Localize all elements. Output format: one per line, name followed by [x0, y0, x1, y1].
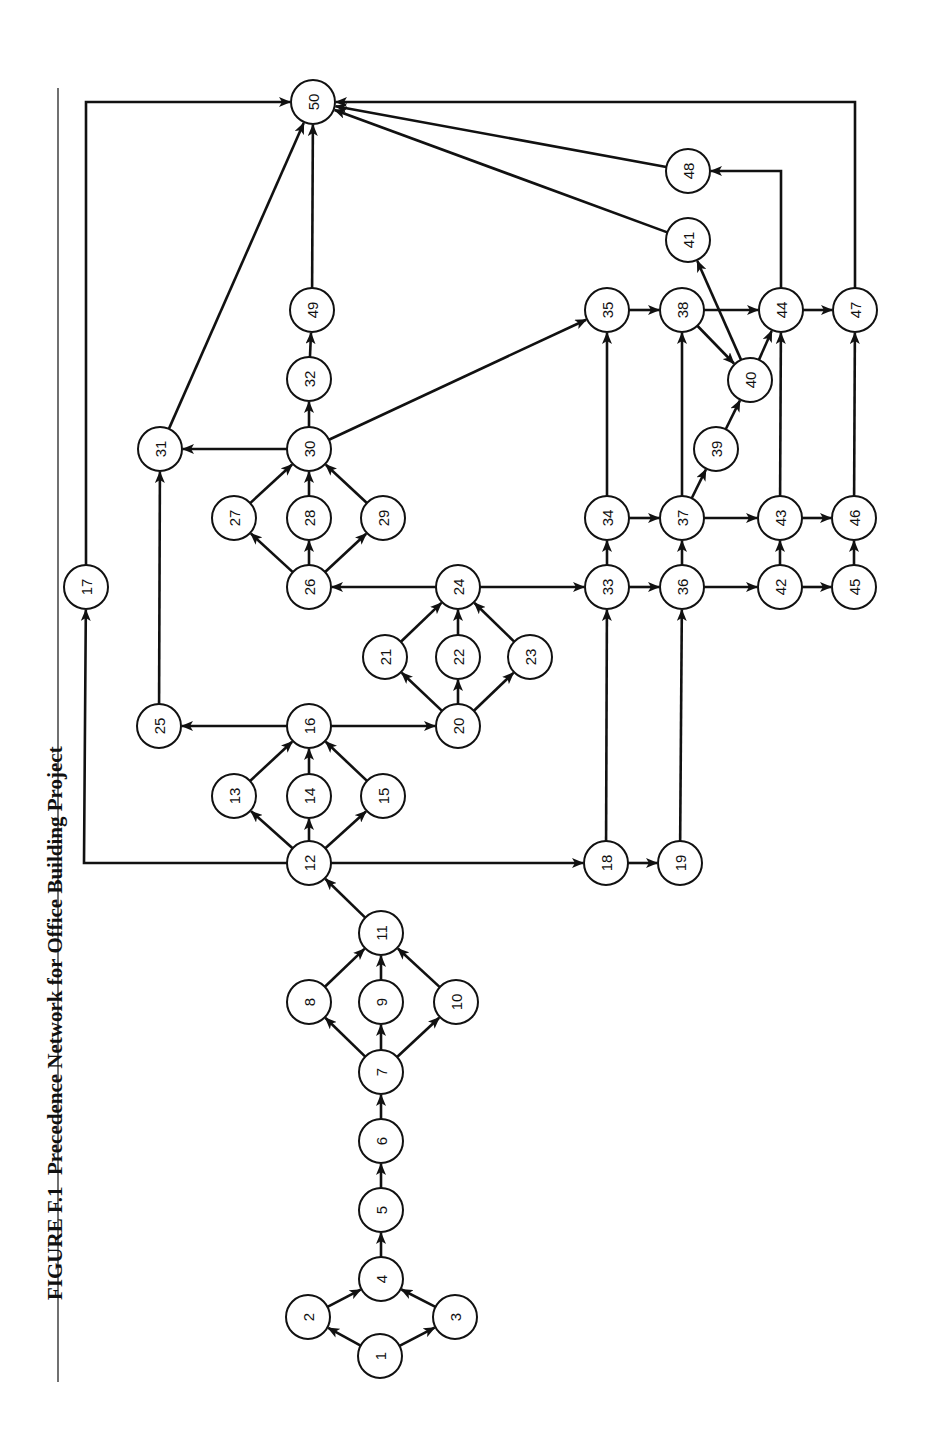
edge-39-to-40 — [726, 401, 740, 430]
precedence-network-diagram: FIGURE F.1 Precedence Network for Office… — [0, 0, 937, 1439]
edge-29-to-30 — [326, 465, 367, 503]
node-35: 35 — [585, 288, 629, 332]
node-6: 6 — [359, 1119, 403, 1163]
node-25: 25 — [137, 704, 181, 748]
node-label: 42 — [772, 579, 789, 596]
node-37: 37 — [660, 496, 704, 540]
edge-46-to-47 — [854, 333, 855, 496]
node-label: 47 — [847, 302, 864, 319]
node-label: 50 — [305, 94, 322, 111]
edge-41-to-50 — [335, 110, 668, 232]
edge-11-to-12 — [325, 879, 365, 918]
node-30: 30 — [287, 427, 331, 471]
node-label: 27 — [226, 510, 243, 527]
node-38: 38 — [660, 288, 704, 332]
node-label: 19 — [672, 855, 689, 872]
node-label: 30 — [301, 441, 318, 458]
edge-2-to-4 — [328, 1290, 361, 1307]
node-label: 21 — [377, 649, 394, 666]
node-19: 19 — [658, 841, 702, 885]
node-label: 17 — [78, 579, 95, 596]
node-label: 5 — [373, 1206, 390, 1214]
edge-12-to-13 — [251, 811, 292, 848]
node-label: 29 — [375, 510, 392, 527]
node-32: 32 — [287, 357, 331, 401]
node-label: 35 — [599, 302, 616, 319]
edge-23-to-24 — [474, 603, 514, 642]
node-8: 8 — [287, 980, 331, 1024]
node-label: 32 — [301, 371, 318, 388]
edge-31-to-50 — [169, 123, 304, 429]
node-label: 1 — [372, 1352, 389, 1360]
node-33: 33 — [585, 565, 629, 609]
node-label: 24 — [450, 579, 467, 596]
node-4: 4 — [359, 1257, 403, 1301]
node-42: 42 — [758, 565, 802, 609]
node-label: 18 — [598, 855, 615, 872]
node-label: 33 — [599, 579, 616, 596]
node-17: 17 — [64, 565, 108, 609]
node-label: 2 — [300, 1313, 317, 1321]
node-39: 39 — [694, 427, 738, 471]
node-7: 7 — [359, 1050, 403, 1094]
node-34: 34 — [585, 496, 629, 540]
node-label: 22 — [450, 649, 467, 666]
node-label: 10 — [448, 994, 465, 1011]
node-label: 12 — [301, 855, 318, 872]
node-label: 13 — [226, 788, 243, 805]
edge-21-to-24 — [401, 603, 442, 642]
node-12: 12 — [287, 841, 331, 885]
edge-15-to-16 — [326, 742, 367, 781]
edge-8-to-11 — [325, 949, 365, 987]
node-45: 45 — [832, 565, 876, 609]
edge-30-to-35 — [329, 320, 586, 440]
node-43: 43 — [758, 496, 802, 540]
node-27: 27 — [212, 496, 256, 540]
node-label: 6 — [373, 1137, 390, 1145]
node-40: 40 — [728, 358, 772, 402]
nodes-layer: 1234567891011121314151617181920212223242… — [64, 80, 877, 1378]
node-label: 3 — [447, 1313, 464, 1321]
node-10: 10 — [434, 980, 478, 1024]
node-16: 16 — [287, 704, 331, 748]
edge-40-to-44 — [759, 331, 772, 360]
node-label: 39 — [708, 441, 725, 458]
node-label: 11 — [373, 925, 390, 941]
figure-title: Precedence Network for Office Building P… — [43, 746, 67, 1175]
node-29: 29 — [361, 496, 405, 540]
node-label: 48 — [680, 163, 697, 180]
node-41: 41 — [666, 218, 710, 262]
node-label: 43 — [772, 510, 789, 527]
edge-26-to-27 — [251, 534, 293, 573]
node-label: 37 — [674, 510, 691, 527]
node-46: 46 — [832, 496, 876, 540]
node-49: 49 — [290, 288, 334, 332]
node-label: 8 — [301, 998, 318, 1006]
node-label: 16 — [301, 718, 318, 735]
node-label: 25 — [151, 718, 168, 735]
node-label: 41 — [680, 232, 697, 249]
node-31: 31 — [138, 427, 182, 471]
edge-1-to-3 — [400, 1328, 435, 1346]
node-label: 15 — [375, 788, 392, 805]
edge-25-to-31 — [159, 472, 160, 704]
node-24: 24 — [436, 565, 480, 609]
node-50: 50 — [291, 80, 335, 124]
node-label: 40 — [742, 372, 759, 389]
edge-44-to-48 — [711, 171, 781, 288]
node-3: 3 — [433, 1295, 477, 1339]
node-26: 26 — [287, 565, 331, 609]
node-21: 21 — [363, 635, 407, 679]
node-14: 14 — [287, 774, 331, 818]
edge-20-to-21 — [402, 673, 442, 711]
node-20: 20 — [436, 704, 480, 748]
edge-49-to-50 — [312, 125, 313, 288]
edge-1-to-2 — [328, 1328, 360, 1346]
edge-3-to-4 — [401, 1290, 435, 1307]
node-label: 9 — [373, 998, 390, 1006]
node-47: 47 — [833, 288, 877, 332]
node-label: 46 — [846, 510, 863, 527]
edge-37-to-39 — [692, 470, 706, 499]
node-9: 9 — [359, 980, 403, 1024]
edge-48-to-50 — [336, 106, 667, 167]
